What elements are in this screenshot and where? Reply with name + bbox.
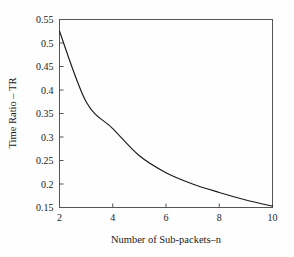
y-tick-label: 0.2 [41,179,54,190]
y-axis-ticks [60,20,64,208]
y-tick-label: 0.5 [41,38,54,49]
y-tick-label: 0.3 [41,132,54,143]
x-tick-label: 8 [217,212,222,223]
x-tick-label: 10 [268,212,278,223]
y-tick-label: 0.35 [36,108,54,119]
x-axis-tick-labels: 246810 [57,212,278,223]
axes-frame [60,20,273,208]
y-axis-title: Time Ratio – TR [7,78,18,149]
y-tick-label: 0.45 [36,61,54,72]
x-tick-label: 4 [110,212,115,223]
y-tick-label: 0.55 [36,14,54,25]
chart-figure: 0.150.20.250.30.350.40.450.50.55 246810 … [0,0,294,257]
x-axis-ticks [60,204,273,208]
x-tick-label: 2 [57,212,62,223]
y-tick-label: 0.15 [36,202,54,213]
chart-plot-area: 0.150.20.250.30.350.40.450.50.55 246810 … [0,0,294,257]
x-tick-label: 6 [164,212,169,223]
x-axis-title: Number of Sub-packets–n [111,234,222,245]
y-axis-tick-labels: 0.150.20.250.30.350.40.450.50.55 [36,14,54,213]
time-ratio-curve [60,31,273,206]
y-tick-label: 0.25 [36,155,54,166]
y-tick-label: 0.4 [41,85,54,96]
